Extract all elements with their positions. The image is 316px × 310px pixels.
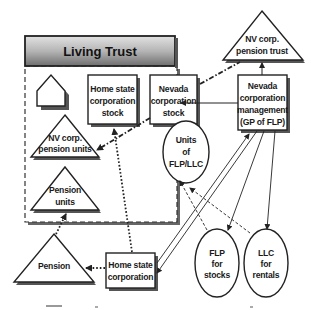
- home-state-corporation-box: Home state corporation: [106, 253, 158, 291]
- svg-text:FLP: FLP: [209, 248, 225, 258]
- svg-text:FLP/LLC: FLP/LLC: [169, 159, 203, 169]
- svg-text:rentals: rentals: [253, 270, 280, 280]
- svg-text:corporation: corporation: [108, 272, 154, 282]
- trust-header-shadow: [175, 38, 178, 68]
- svg-text:corporation: corporation: [151, 96, 197, 106]
- svg-text:NV corp.: NV corp.: [245, 34, 279, 44]
- svg-text:Nevada: Nevada: [248, 81, 278, 91]
- svg-text:stocks: stocks: [204, 270, 230, 280]
- estate-structure-diagram: Living Trust Home state corporation stoc…: [0, 0, 316, 310]
- svg-text:stock: stock: [102, 108, 124, 118]
- svg-text:pension trust: pension trust: [236, 46, 288, 56]
- svg-text:corporation: corporation: [90, 96, 136, 106]
- svg-text:corporation: corporation: [240, 93, 286, 103]
- nv-corp-pension-trust-triangle: NV corp. pension trust: [223, 11, 305, 63]
- svg-text:management: management: [237, 105, 288, 115]
- units-of-flp-llc-ellipse: Units of FLP/LLC: [163, 121, 209, 183]
- svg-text:Pension: Pension: [49, 185, 81, 195]
- trust-title: Living Trust: [63, 44, 137, 59]
- svg-text:(GP of FLP): (GP of FLP): [240, 117, 285, 127]
- nevada-corporation-stock-box: Nevada corporation stock: [150, 75, 200, 127]
- svg-text:Pension: Pension: [38, 261, 70, 271]
- flp-for-stocks-ellipse: FLP for stocks: [195, 229, 239, 297]
- svg-text:Units: Units: [176, 135, 197, 145]
- nevada-corporation-management-box: Nevada corporation management (GP of FLP…: [237, 75, 290, 133]
- svg-text:pension units: pension units: [38, 144, 92, 154]
- svg-text:for: for: [261, 259, 273, 269]
- caption-fragment: [46, 305, 253, 308]
- svg-text:NV corp.: NV corp.: [48, 133, 82, 143]
- svg-text:stock: stock: [163, 108, 185, 118]
- svg-text:of: of: [182, 147, 190, 157]
- svg-text:Home state: Home state: [108, 260, 153, 270]
- svg-text:for: for: [212, 259, 224, 269]
- svg-text:units: units: [55, 197, 75, 207]
- home-state-corporation-stock-box: Home state corporation stock: [88, 75, 140, 127]
- svg-text:LLC: LLC: [258, 248, 274, 258]
- dashed-arrow-flp-to-units: [180, 181, 207, 230]
- svg-text:Home state: Home state: [90, 84, 135, 94]
- arrow-mgmt-to-llc: [267, 131, 275, 229]
- llc-for-rentals-ellipse: LLC for rentals: [244, 229, 288, 297]
- svg-text:Nevada: Nevada: [159, 84, 189, 94]
- dashdot-link-nvstock-pensiontrust: [200, 62, 240, 84]
- pension-triangle: Pension: [14, 234, 96, 285]
